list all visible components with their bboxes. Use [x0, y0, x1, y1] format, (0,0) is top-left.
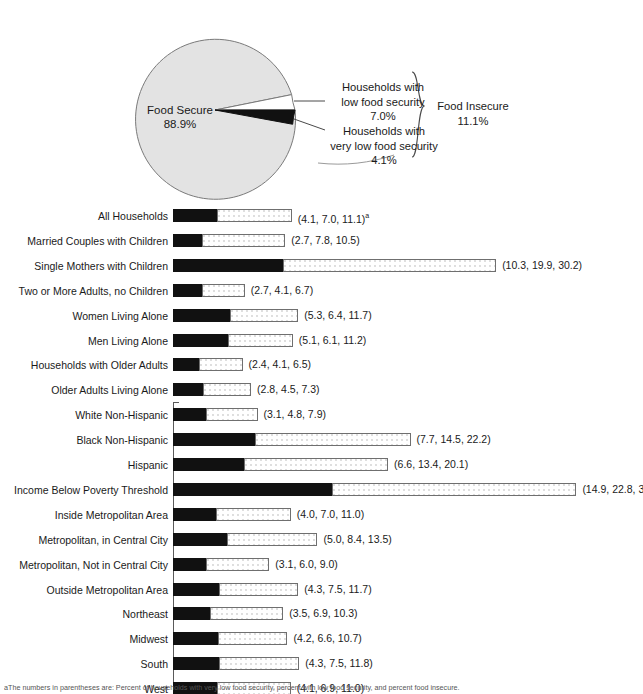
bar-value-label: (4.2, 6.6, 10.7) — [293, 632, 361, 645]
bar-value-label: (4.1, 7.0, 11.1)a — [298, 209, 369, 226]
food-insecure-value: 11.1% — [458, 115, 489, 127]
bar-segment-very-low[interactable] — [173, 284, 202, 297]
bar-value-label: (5.0, 8.4, 13.5) — [323, 533, 391, 546]
bar-row[interactable]: (3.1, 6.0, 9.0) — [173, 558, 643, 571]
bar-segment-low[interactable] — [206, 408, 257, 421]
bar-segment-low[interactable] — [227, 533, 318, 546]
bar-value-label: (3.1, 6.0, 9.0) — [275, 558, 337, 571]
bar-segment-low[interactable] — [202, 284, 245, 297]
bar-value-superscript: a — [365, 212, 369, 219]
category-label: Northeast — [0, 608, 168, 620]
bar-segment-low[interactable] — [206, 558, 269, 571]
category-label: South — [0, 658, 168, 670]
bar-row[interactable]: (7.7, 14.5, 22.2) — [173, 433, 643, 446]
bar-segment-very-low[interactable] — [173, 334, 228, 347]
bar-segment-low[interactable] — [228, 334, 293, 347]
bar-row[interactable]: (5.0, 8.4, 13.5) — [173, 533, 643, 546]
bar-segment-very-low[interactable] — [173, 657, 219, 670]
food-insecure-label: Food Insecure — [437, 100, 509, 112]
pie-callout-very-low-value: 4.1% — [371, 154, 397, 166]
bar-chart-section: All HouseholdsMarried Couples with Child… — [0, 196, 643, 666]
bar-segment-low[interactable] — [219, 583, 298, 596]
bar-value-label: (2.7, 7.8, 10.5) — [291, 234, 359, 247]
bar-segment-low[interactable] — [255, 433, 410, 446]
bar-segment-low[interactable] — [244, 458, 388, 471]
bar-row[interactable]: (14.9, 22.8, 37.7) — [173, 483, 643, 496]
bar-row[interactable]: (6.6, 13.4, 20.1) — [173, 458, 643, 471]
bar-row[interactable]: (4.0, 7.0, 11.0) — [173, 508, 643, 521]
pie-label-food-secure: Food Secure 88.9% — [120, 103, 240, 131]
bar-segment-low[interactable] — [218, 632, 288, 645]
pie-label-food-secure-text: Food Secure — [147, 104, 213, 116]
bar-value-label: (14.9, 22.8, 37.7) — [582, 483, 643, 496]
bar-segment-very-low[interactable] — [173, 234, 202, 247]
food-security-figure: Food Secure 88.9% Households with low fo… — [0, 0, 643, 694]
bar-segment-very-low[interactable] — [173, 433, 255, 446]
bar-row[interactable]: (10.3, 19.9, 30.2) — [173, 259, 643, 272]
category-label: Women Living Alone — [0, 310, 168, 322]
bar-value-label: (5.1, 6.1, 11.2) — [299, 334, 367, 347]
bar-segment-low[interactable] — [202, 234, 285, 247]
bar-segment-low[interactable] — [219, 657, 299, 670]
bar-row[interactable]: (2.4, 4.1, 6.5) — [173, 358, 643, 371]
bar-segment-very-low[interactable] — [173, 632, 218, 645]
bar-row[interactable]: (2.7, 4.1, 6.7) — [173, 284, 643, 297]
bar-segment-very-low[interactable] — [173, 508, 216, 521]
category-label: Black Non-Hispanic — [0, 434, 168, 446]
bar-segment-low[interactable] — [203, 383, 251, 396]
bar-segment-low[interactable] — [230, 309, 298, 322]
bar-segment-low[interactable] — [217, 209, 292, 222]
bar-row[interactable]: (4.2, 6.6, 10.7) — [173, 632, 643, 645]
pie-chart-svg — [0, 0, 643, 200]
pie-callout-very-low-line1: Households with — [343, 125, 425, 137]
pie-callout-very-low-food-security: Households with very low food security 4… — [320, 124, 448, 168]
category-label: Midwest — [0, 633, 168, 645]
bar-value-label: (3.1, 4.8, 7.9) — [264, 408, 326, 421]
category-label: Two or More Adults, no Children — [0, 285, 168, 297]
bar-row[interactable]: (4.3, 7.5, 11.7) — [173, 583, 643, 596]
bar-segment-very-low[interactable] — [173, 209, 217, 222]
pie-callout-very-low-line2: very low food security — [330, 140, 438, 152]
bar-segment-very-low[interactable] — [173, 458, 244, 471]
bar-row[interactable]: (5.3, 6.4, 11.7) — [173, 309, 643, 322]
pie-callout-low-line1: Households with — [342, 81, 424, 93]
category-label: Men Living Alone — [0, 335, 168, 347]
bar-row[interactable]: (3.1, 4.8, 7.9) — [173, 408, 643, 421]
bar-segment-very-low[interactable] — [173, 533, 227, 546]
bar-segment-very-low[interactable] — [173, 358, 199, 371]
bar-value-label: (7.7, 14.5, 22.2) — [417, 433, 491, 446]
pie-value-food-secure: 88.9% — [164, 118, 197, 130]
pie-chart-section: Food Secure 88.9% Households with low fo… — [0, 0, 643, 200]
bar-row[interactable]: (4.1, 7.0, 11.1)a — [173, 209, 643, 222]
bar-row[interactable]: (2.8, 4.5, 7.3) — [173, 383, 643, 396]
pie-callout-food-insecure: Food Insecure 11.1% — [427, 99, 519, 128]
bar-segment-low[interactable] — [199, 358, 243, 371]
category-label: Metropolitan, in Central City — [0, 534, 168, 546]
bar-segment-low[interactable] — [210, 607, 283, 620]
pie-callout-low-line2: low food security — [341, 96, 424, 108]
bar-row[interactable]: (2.7, 7.8, 10.5) — [173, 234, 643, 247]
category-label: White Non-Hispanic — [0, 409, 168, 421]
category-label: Households with Older Adults — [0, 359, 168, 371]
bar-value-label: (3.5, 6.9, 10.3) — [289, 607, 357, 620]
bar-segment-very-low[interactable] — [173, 309, 230, 322]
bar-segment-very-low[interactable] — [173, 558, 206, 571]
bar-segment-low[interactable] — [216, 508, 291, 521]
category-label: All Households — [0, 210, 168, 222]
bar-row[interactable]: (5.1, 6.1, 11.2) — [173, 334, 643, 347]
bar-segment-low[interactable] — [283, 259, 496, 272]
bar-row[interactable]: (4.3, 7.5, 11.8) — [173, 657, 643, 670]
bar-segment-very-low[interactable] — [173, 383, 203, 396]
category-label: Hispanic — [0, 459, 168, 471]
pie-callout-low-value: 7.0% — [370, 110, 396, 122]
bar-segment-very-low[interactable] — [173, 583, 219, 596]
figure-footnote: aThe numbers in parentheses are: Percent… — [4, 683, 640, 692]
bar-segment-very-low[interactable] — [173, 607, 210, 620]
pie-callout-low-food-security: Households with low food security 7.0% — [328, 80, 438, 124]
bar-segment-very-low[interactable] — [173, 408, 206, 421]
bar-segment-very-low[interactable] — [173, 259, 283, 272]
bar-segment-very-low[interactable] — [173, 483, 332, 496]
bar-segment-low[interactable] — [332, 483, 576, 496]
bar-row[interactable]: (3.5, 6.9, 10.3) — [173, 607, 643, 620]
bar-value-label: (4.0, 7.0, 11.0) — [297, 508, 365, 521]
